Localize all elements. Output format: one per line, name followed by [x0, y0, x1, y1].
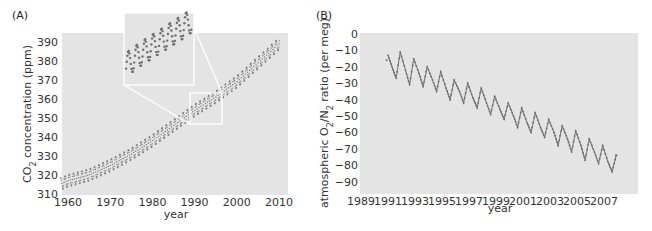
chart-b-y-label: atmospheric O2/N2 ratio (per meg)	[318, 18, 335, 208]
svg-text:370: 370	[37, 74, 58, 87]
chart-b-x-ticks: 1989199119931995199719992001200320052007	[347, 195, 618, 208]
chart-a-y-ticks: 310320330340350360370380390	[37, 36, 58, 201]
svg-text:2005: 2005	[563, 195, 591, 208]
svg-text:−60: −60	[335, 126, 358, 139]
svg-text:1993: 1993	[401, 195, 429, 208]
chart-a-x-label: year	[164, 208, 189, 221]
svg-text:−80: −80	[335, 159, 358, 172]
svg-text:1995: 1995	[428, 195, 456, 208]
figure: 310320330340350360370380390 196019701980…	[0, 0, 652, 231]
svg-text:1997: 1997	[455, 195, 483, 208]
svg-text:1991: 1991	[374, 195, 402, 208]
svg-text:−40: −40	[335, 94, 358, 107]
svg-text:1960: 1960	[54, 196, 82, 209]
chart-b-x-label: year	[488, 202, 513, 215]
chart-b-y-ticks: 0−10−20−30−40−50−60−70−80−90	[335, 28, 358, 189]
svg-text:380: 380	[37, 55, 58, 68]
svg-text:1980: 1980	[138, 196, 166, 209]
svg-text:−30: −30	[335, 77, 358, 90]
chart-a-inset	[124, 11, 194, 85]
svg-text:340: 340	[37, 131, 58, 144]
svg-text:0: 0	[351, 28, 358, 41]
svg-text:−10: −10	[335, 44, 358, 57]
svg-text:330: 330	[37, 150, 58, 163]
chart-a-y-label: CO2 concentration (ppm)	[21, 45, 38, 183]
svg-text:2003: 2003	[536, 195, 564, 208]
svg-text:2010: 2010	[265, 196, 293, 209]
svg-text:350: 350	[37, 112, 58, 125]
svg-text:−20: −20	[335, 61, 358, 74]
svg-text:−50: −50	[335, 110, 358, 123]
svg-text:390: 390	[37, 36, 58, 49]
svg-text:−70: −70	[335, 143, 358, 156]
chart-a-co2: 310320330340350360370380390 196019701980…	[21, 11, 293, 221]
svg-text:2000: 2000	[223, 196, 251, 209]
svg-text:−90: −90	[335, 176, 358, 189]
svg-text:1970: 1970	[96, 196, 124, 209]
svg-text:320: 320	[37, 169, 58, 182]
svg-text:2001: 2001	[509, 195, 537, 208]
chart-b-o2n2: 0−10−20−30−40−50−60−70−80−90 19891991199…	[318, 18, 638, 215]
svg-text:360: 360	[37, 93, 58, 106]
svg-text:2007: 2007	[590, 195, 618, 208]
svg-text:1989: 1989	[347, 195, 375, 208]
